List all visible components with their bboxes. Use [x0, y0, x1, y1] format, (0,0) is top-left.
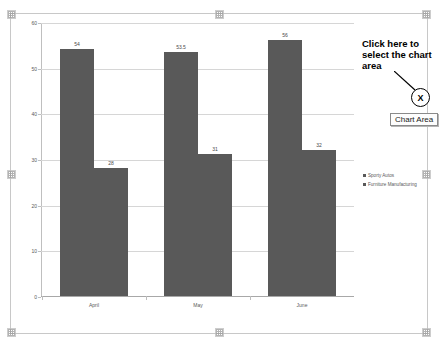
x-axis-category-label: April — [89, 302, 99, 308]
callout-text: Click here to select the chart area — [362, 38, 434, 71]
x-axis-category-label: May — [193, 302, 202, 308]
y-tick-mark — [38, 114, 41, 115]
bar[interactable]: 31 — [198, 154, 232, 296]
y-axis-tick-label: 0 — [34, 294, 37, 300]
y-axis-tick-label: 60 — [31, 20, 37, 26]
legend-label: Furniture Manufacturing — [368, 182, 417, 187]
bar[interactable]: 53.5 — [164, 52, 198, 296]
chart-legend[interactable]: Sporty AutosFurniture Manufacturing — [363, 173, 417, 191]
bar-value-label: 53.5 — [176, 44, 186, 50]
bar[interactable]: 28 — [94, 168, 128, 296]
x-tick-mark — [250, 296, 251, 300]
x-axis — [41, 296, 354, 297]
resize-handle-bottom-right[interactable] — [422, 328, 431, 337]
resize-handle-bottom-center[interactable] — [215, 328, 224, 337]
y-tick-mark — [38, 69, 41, 70]
chart-area-tooltip: Chart Area — [390, 113, 438, 126]
bar[interactable]: 56 — [268, 40, 302, 296]
bar[interactable]: 54 — [60, 49, 94, 296]
y-axis-tick-label: 10 — [31, 248, 37, 254]
y-axis-tick-label: 30 — [31, 157, 37, 163]
legend-swatch-icon — [363, 174, 366, 177]
bar-value-label: 54 — [74, 41, 80, 47]
bar-group: 5632June — [250, 23, 354, 296]
y-tick-mark — [38, 23, 41, 24]
bar-value-label: 31 — [212, 146, 218, 152]
resize-handle-middle-right[interactable] — [422, 170, 431, 179]
legend-item[interactable]: Sporty Autos — [363, 173, 417, 178]
bar[interactable]: 32 — [302, 150, 336, 296]
x-tick-mark — [42, 296, 43, 300]
y-tick-mark — [38, 297, 41, 298]
y-tick-mark — [38, 206, 41, 207]
legend-label: Sporty Autos — [368, 173, 394, 178]
y-tick-mark — [38, 251, 41, 252]
y-axis-tick-label: 50 — [31, 66, 37, 72]
y-axis-tick-label: 20 — [31, 203, 37, 209]
resize-handle-bottom-left[interactable] — [7, 328, 16, 337]
bar-groups: 5428April53.531May5632June — [42, 23, 354, 296]
bar-group: 53.531May — [146, 23, 250, 296]
resize-handle-middle-left[interactable] — [7, 170, 16, 179]
legend-item[interactable]: Furniture Manufacturing — [363, 182, 417, 187]
bar-value-label: 28 — [108, 160, 114, 166]
cursor-x-marker-icon: X — [411, 88, 430, 107]
bar-group: 5428April — [42, 23, 146, 296]
y-axis-tick-label: 40 — [31, 111, 37, 117]
x-axis-category-label: June — [297, 302, 308, 308]
chart-object[interactable]: 6050403020100 5428April53.531May5632June… — [10, 13, 428, 334]
resize-handle-top-left[interactable] — [7, 10, 16, 19]
resize-handle-top-right[interactable] — [422, 10, 431, 19]
legend-swatch-icon — [363, 183, 366, 186]
bar-value-label: 56 — [282, 32, 288, 38]
resize-handle-top-center[interactable] — [215, 10, 224, 19]
plot-area[interactable]: 6050403020100 5428April53.531May5632June — [41, 23, 354, 297]
y-tick-mark — [38, 160, 41, 161]
bar-value-label: 32 — [316, 142, 322, 148]
x-tick-mark — [146, 296, 147, 300]
